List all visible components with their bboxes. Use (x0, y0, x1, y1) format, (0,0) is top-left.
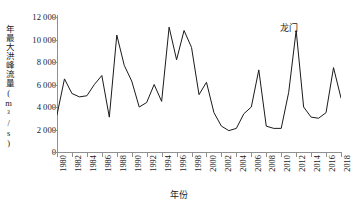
x-tick-label: 2018 (344, 155, 352, 172)
station-annotation: 龙门 (280, 21, 298, 34)
y-tick-label: 4 000 (12, 103, 56, 112)
x-tick-label: 2000 (210, 155, 218, 172)
x-tick-label: 1980 (60, 155, 68, 172)
x-tick-label: 1982 (75, 155, 83, 172)
x-tick-label: 2014 (314, 155, 322, 172)
data-series-plot (57, 17, 341, 152)
discharge-line (57, 27, 341, 131)
x-axis-line (57, 152, 342, 153)
x-tick-label: 1996 (180, 155, 188, 172)
x-axis-title: 年份 (0, 188, 357, 201)
x-tick-label: 2012 (299, 155, 307, 172)
y-tick-label: 8 000 (12, 58, 56, 67)
x-tick-label: 2008 (269, 155, 277, 172)
x-tick-label: 1988 (120, 155, 128, 172)
y-tick-label: 12 000 (12, 13, 56, 22)
x-tick-label: 2006 (255, 155, 263, 172)
x-tick-label: 2004 (240, 155, 248, 172)
y-tick-label: 2 000 (12, 126, 56, 135)
x-tick-label: 1990 (135, 155, 143, 172)
x-tick-label: 1992 (150, 155, 158, 172)
x-tick-label: 2016 (329, 155, 337, 172)
chart-figure: 年最大洪峰流量(m³/s) 02 0004 0006 0008 00010 00… (0, 0, 357, 206)
x-tick-label: 1994 (165, 155, 173, 172)
x-tick-label: 1986 (105, 155, 113, 172)
x-tick-label: 2002 (225, 155, 233, 172)
y-tick-label: 10 000 (12, 36, 56, 45)
x-tick-label: 2010 (284, 155, 292, 172)
x-tick-label: 1984 (90, 155, 98, 172)
y-tick-label: 6 000 (12, 81, 56, 90)
x-axis-tick-labels: 1980198219841986198819901992199419961998… (0, 155, 357, 189)
x-tick-label: 1998 (195, 155, 203, 172)
